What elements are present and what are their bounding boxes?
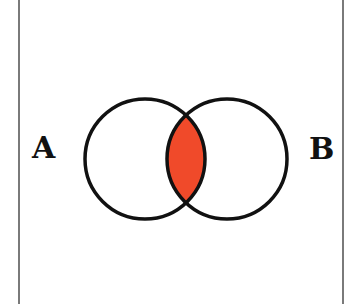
set-b-label: B	[309, 134, 334, 164]
set-a-label: A	[32, 133, 55, 163]
